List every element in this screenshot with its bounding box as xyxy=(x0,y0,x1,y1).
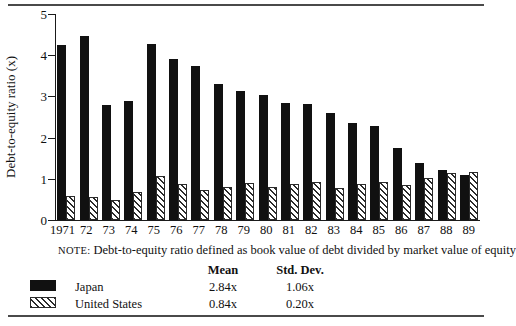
x-tick-label-85: 85 xyxy=(368,223,391,238)
bar-group-83 xyxy=(324,14,346,220)
bar-group-77 xyxy=(189,14,211,220)
bar-united-states-87 xyxy=(424,178,433,220)
note-label: NOTE: xyxy=(58,245,90,256)
y-tick-label-3: 3 xyxy=(25,90,47,103)
bar-united-states-1971 xyxy=(66,196,75,220)
hatched-swatch xyxy=(30,297,56,308)
bar-group-87 xyxy=(413,14,435,220)
y-tick-0 xyxy=(48,220,55,221)
bar-united-states-82 xyxy=(312,182,321,220)
x-tick-label-74: 74 xyxy=(120,223,143,238)
bar-japan-80 xyxy=(259,95,268,220)
x-tick-label-81: 81 xyxy=(278,223,301,238)
bar-japan-82 xyxy=(303,104,312,220)
x-tick-label-80: 80 xyxy=(255,223,278,238)
legend-swatch-cell xyxy=(30,296,66,313)
y-tick-label-0: 0 xyxy=(25,214,47,227)
bar-japan-83 xyxy=(326,113,335,220)
x-axis-line xyxy=(55,220,480,221)
bar-japan-75 xyxy=(147,44,156,220)
legend-row: United States0.84x0.20x xyxy=(30,296,340,313)
legend-std-dev-value: 0.20x xyxy=(260,296,340,313)
x-tick-label-83: 83 xyxy=(323,223,346,238)
y-tick-3 xyxy=(48,96,55,97)
bar-united-states-72 xyxy=(89,197,98,220)
bar-united-states-80 xyxy=(268,187,277,220)
bar-united-states-89 xyxy=(469,172,478,220)
y-tick-5 xyxy=(48,14,55,15)
bar-group-81 xyxy=(279,14,301,220)
bar-group-78 xyxy=(212,14,234,220)
bar-united-states-77 xyxy=(200,190,209,220)
x-tick-label-79: 79 xyxy=(233,223,256,238)
bar-united-states-81 xyxy=(290,184,299,220)
bar-japan-77 xyxy=(191,66,200,220)
bar-group-75 xyxy=(145,14,167,220)
legend-row: Japan2.84x1.06x xyxy=(30,279,340,296)
bar-japan-72 xyxy=(80,36,89,220)
x-axis-tick-labels: 1971727374757677787980818283848586878889 xyxy=(55,223,480,238)
legend-series-name: United States xyxy=(66,296,186,313)
bar-group-72 xyxy=(77,14,99,220)
bar-group-89 xyxy=(458,14,480,220)
legend-header-std-dev: Std. Dev. xyxy=(260,262,340,279)
x-tick-label-73: 73 xyxy=(98,223,121,238)
bar-group-73 xyxy=(100,14,122,220)
y-tick-4 xyxy=(48,55,55,56)
bar-japan-78 xyxy=(214,84,223,220)
x-tick-label-78: 78 xyxy=(210,223,233,238)
bar-japan-86 xyxy=(393,148,402,221)
legend-mean-value: 0.84x xyxy=(186,296,260,313)
y-tick-1 xyxy=(48,179,55,180)
bar-japan-74 xyxy=(124,101,133,220)
bar-group-76 xyxy=(167,14,189,220)
y-axis-label: Debt-to-equity ratio (x) xyxy=(3,56,19,178)
bar-united-states-88 xyxy=(447,173,456,220)
x-tick-label-77: 77 xyxy=(188,223,211,238)
bar-united-states-86 xyxy=(402,185,411,220)
solid-black-swatch xyxy=(30,280,56,291)
y-tick-label-2: 2 xyxy=(25,132,47,145)
chart-legend: Mean Std. Dev. Japan2.84x1.06xUnited Sta… xyxy=(30,262,340,313)
chart-note: NOTE: Debt-to-equity ratio defined as bo… xyxy=(58,243,516,258)
y-tick-label-5: 5 xyxy=(25,8,47,21)
legend-swatch-cell xyxy=(30,279,66,296)
bar-united-states-76 xyxy=(178,184,187,220)
bar-group-85 xyxy=(368,14,390,220)
bar-united-states-85 xyxy=(379,182,388,220)
x-tick-label-84: 84 xyxy=(345,223,368,238)
bar-japan-84 xyxy=(348,123,357,220)
bar-japan-87 xyxy=(415,163,424,220)
x-tick-label-72: 72 xyxy=(75,223,98,238)
legend-header-swatch xyxy=(30,262,66,279)
x-tick-label-1971: 1971 xyxy=(50,223,75,238)
bottom-horizontal-rule xyxy=(8,315,484,317)
bar-japan-73 xyxy=(102,105,111,220)
bar-united-states-84 xyxy=(357,184,366,220)
bar-group-88 xyxy=(435,14,457,220)
legend-body: Japan2.84x1.06xUnited States0.84x0.20x xyxy=(30,279,340,313)
x-tick-label-88: 88 xyxy=(435,223,458,238)
bar-united-states-75 xyxy=(156,176,165,220)
bar-groups xyxy=(55,14,480,220)
bar-group-84 xyxy=(346,14,368,220)
bar-japan-76 xyxy=(169,59,178,221)
x-tick-label-75: 75 xyxy=(143,223,166,238)
bar-japan-85 xyxy=(370,126,379,220)
x-tick-label-89: 89 xyxy=(458,223,481,238)
legend-std-dev-value: 1.06x xyxy=(260,279,340,296)
bar-united-states-74 xyxy=(133,192,142,220)
x-tick-label-86: 86 xyxy=(390,223,413,238)
bar-japan-1971 xyxy=(57,45,66,221)
bar-group-1971 xyxy=(55,14,77,220)
plot-area: Debt-to-equity ratio (x) 012345 xyxy=(55,14,480,220)
x-tick-label-87: 87 xyxy=(413,223,436,238)
bar-group-74 xyxy=(122,14,144,220)
bar-japan-89 xyxy=(460,175,469,220)
x-tick-label-76: 76 xyxy=(165,223,188,238)
bar-united-states-79 xyxy=(245,183,254,220)
top-horizontal-rule xyxy=(8,4,484,6)
legend-header-row: Mean Std. Dev. xyxy=(30,262,340,279)
x-tick-label-82: 82 xyxy=(300,223,323,238)
